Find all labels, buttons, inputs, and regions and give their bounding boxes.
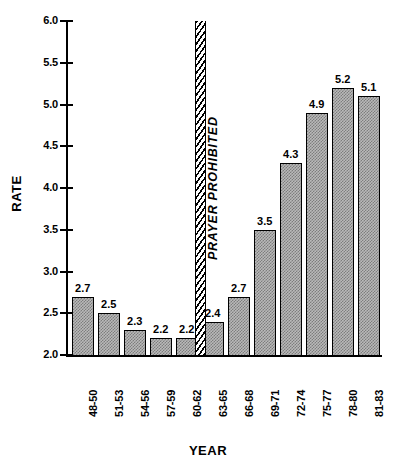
bar (228, 297, 250, 356)
bar (98, 313, 120, 356)
prayer-prohibited-label: PRAYER PROHIBITED (206, 116, 220, 260)
x-axis-category-label: 60-62 (192, 390, 203, 417)
prayer-prohibited-band (195, 21, 206, 355)
bar-value-label: 3.5 (248, 216, 282, 227)
x-axis-category-label: 78-80 (348, 390, 359, 417)
bar-value-label: 2.5 (92, 299, 126, 310)
x-axis-category-label: 69-71 (270, 390, 281, 417)
x-axis-category-label: 48-50 (88, 390, 99, 417)
bar-value-label: 5.1 (352, 82, 386, 93)
bar-value-label: 2.7 (222, 283, 256, 294)
x-axis-category-label: 51-53 (114, 390, 125, 417)
bar (150, 338, 172, 356)
x-axis-category-label: 63-65 (218, 390, 229, 417)
x-axis-category-label: 72-74 (296, 390, 307, 417)
bar-value-label: 4.9 (300, 99, 334, 110)
x-axis-category-label: 54-56 (140, 390, 151, 417)
bar (280, 163, 302, 356)
bar (306, 113, 328, 356)
x-axis-category-label: 75-77 (322, 390, 333, 417)
bar (72, 297, 94, 356)
x-axis-category-label: 81-83 (374, 390, 385, 417)
bar-chart: 2.02.53.03.54.04.55.05.56.0 RATE 2.748-5… (0, 0, 416, 469)
bar-value-label: 2.7 (66, 283, 100, 294)
bar (358, 96, 380, 356)
x-axis-title: YEAR (0, 443, 416, 458)
bar (254, 230, 276, 356)
bar (124, 330, 146, 356)
x-axis-category-label: 57-59 (166, 390, 177, 417)
bar (332, 88, 354, 356)
x-axis-category-label: 66-68 (244, 390, 255, 417)
bar-value-label: 4.3 (274, 149, 308, 160)
